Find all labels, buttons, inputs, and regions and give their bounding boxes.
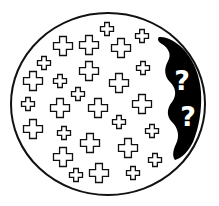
question-mark-icon: ? (180, 101, 196, 132)
illustration-canvas: ?? (0, 0, 219, 206)
question-mark-icon: ? (174, 65, 190, 96)
figure: ?? (0, 0, 219, 206)
